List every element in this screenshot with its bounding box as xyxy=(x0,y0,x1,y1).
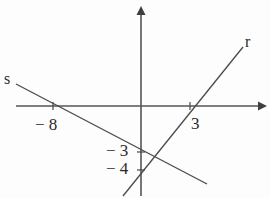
tick-label-x-minus8: − 8 xyxy=(35,116,57,133)
tick-label-x-3: 3 xyxy=(191,115,200,132)
line-label-s: s xyxy=(4,71,10,87)
y-axis xyxy=(137,6,146,196)
coordinate-plane-figure: s r − 8 3 − 3 − 4 xyxy=(0,0,270,198)
y-axis-arrow-icon xyxy=(137,6,146,15)
tick-label-y-minus3: − 3 xyxy=(106,142,128,159)
graph-canvas xyxy=(0,0,270,198)
x-axis-arrow-icon xyxy=(258,102,267,111)
tick-label-y-minus4: − 4 xyxy=(106,160,128,177)
line-label-r: r xyxy=(245,34,250,50)
